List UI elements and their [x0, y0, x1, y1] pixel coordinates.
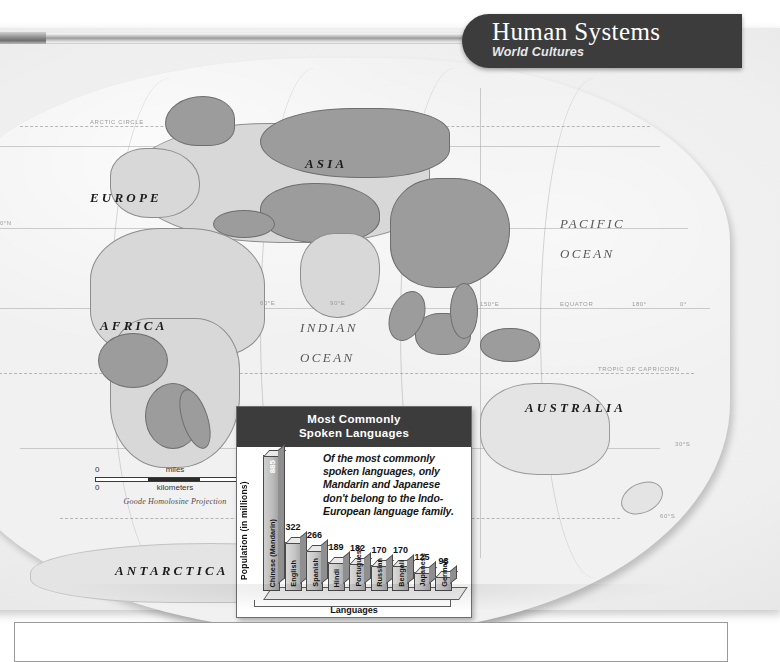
- chart-bar-category-label: Japanese: [418, 553, 427, 587]
- map-grid-label: 90°E: [330, 300, 345, 306]
- header-banner: Human Systems World Cultures: [462, 14, 742, 68]
- chart-bar-category-label: English: [289, 560, 298, 587]
- map-grid-label: 150°E: [480, 301, 499, 307]
- chart-bar-body: 170Russian: [371, 565, 388, 591]
- chart-bar-value: 189: [328, 542, 343, 552]
- map-label-africa: AFRICA: [100, 318, 168, 334]
- chart-bar-body: 98German: [435, 576, 452, 591]
- landmass-scandinavia: [165, 96, 235, 146]
- map-label-australia: AUSTRALIA: [525, 400, 626, 416]
- map-label-europe: EUROPE: [90, 190, 162, 206]
- map-label-indian: INDIAN: [300, 320, 358, 336]
- chart-bar-body: 182Portuguese: [349, 563, 366, 591]
- bottom-content-box: [14, 622, 728, 662]
- chart-title: Most Commonly Spoken Languages: [237, 407, 471, 447]
- chart-bar: 322English: [285, 542, 302, 591]
- chart-plot-area: Population (in millions) Of the most com…: [237, 447, 471, 616]
- scale-km-min: 0: [95, 483, 99, 492]
- chart-bar-category-label: German: [439, 559, 448, 587]
- landmass-russia: [260, 108, 450, 178]
- map-grid-label: 30°S: [675, 441, 690, 447]
- map-label-antarctica: ANTARCTICA: [115, 563, 229, 579]
- chart-y-axis-label: Population (in millions): [239, 461, 253, 601]
- page-subtitle: World Cultures: [492, 45, 724, 59]
- chart-bar-value: 170: [371, 545, 386, 555]
- chart-bar-value: 885: [267, 460, 276, 473]
- map-label-tropic-capricorn: TROPIC OF CAPRICORN: [598, 366, 680, 372]
- map-label-pacific-ocean: OCEAN: [560, 246, 615, 262]
- chart-bar-category-label: Russian: [375, 558, 384, 587]
- chart-bar: 189Hindi: [328, 562, 345, 591]
- landmass-central-asia: [260, 183, 380, 243]
- map-grid-label: 60°S: [660, 513, 675, 519]
- scale-bar-graphic: [95, 477, 255, 482]
- chart-bar-category-label: Hindi: [332, 569, 341, 587]
- top-divider-cap: [0, 32, 46, 44]
- map-label-indian-ocean: OCEAN: [300, 350, 355, 366]
- page-title: Human Systems: [492, 18, 724, 46]
- chart-bar: 170Bengali: [392, 565, 409, 591]
- chart-title-line-1: Most Commonly: [241, 413, 467, 427]
- meridian-line: [480, 88, 481, 558]
- chart-bar-value: 322: [285, 522, 300, 532]
- chart-bar-side-face: [450, 565, 457, 584]
- chart-bar-category-label: Bengali: [396, 560, 405, 587]
- chart-bar: 182Portuguese: [349, 563, 366, 591]
- scale-miles-min: 0: [95, 465, 99, 474]
- chart-bar-body: 125Japanese: [414, 572, 431, 591]
- chart-bar-body: 189Hindi: [328, 562, 345, 591]
- chart-bar: 266Spanish: [306, 550, 323, 591]
- chart-bar: 885Chinese (Mandarin): [263, 455, 280, 591]
- chart-bar-body: 885Chinese (Mandarin): [263, 455, 280, 591]
- map-projection-label: Goode Homolosine Projection: [95, 497, 255, 506]
- chart-x-axis-label: Languages: [237, 605, 471, 615]
- map-grid-label: 180°: [632, 301, 647, 307]
- map-grid-label: 0°: [680, 301, 687, 307]
- chart-bar-category-label: Spanish: [310, 558, 319, 587]
- map-label-arctic-circle: ARCTIC CIRCLE: [90, 119, 144, 125]
- chart-bar: 125Japanese: [414, 572, 431, 591]
- chart-bar-value: 170: [393, 545, 408, 555]
- chart-bar-group: 885Chinese (Mandarin)322English266Spanis…: [255, 455, 467, 591]
- scale-km-label: kilometers: [157, 483, 193, 492]
- map-grid-label: 30°N: [0, 220, 12, 226]
- landmass-europe: [110, 148, 200, 218]
- map-label-asia: ASIA: [305, 156, 347, 172]
- chart-title-line-2: Spoken Languages: [241, 427, 467, 441]
- chart-bar-body: 266Spanish: [306, 550, 323, 591]
- chart-bar-value: 266: [307, 530, 322, 540]
- map-scale-bar: 0 miles 2000 0 kilometers 3000 Goode Hom…: [95, 465, 255, 506]
- chart-bar-body: 322English: [285, 542, 302, 591]
- scale-miles-label: miles: [166, 465, 185, 474]
- landmass-west-africa: [98, 333, 168, 388]
- chart-bar-category-label: Chinese (Mandarin): [267, 519, 276, 588]
- chart-bar-category-label: Portuguese: [353, 546, 362, 587]
- landmass-new-guinea: [480, 328, 540, 362]
- landmass-philippines: [450, 283, 478, 339]
- map-label-pacific: PACIFIC: [560, 216, 625, 232]
- language-chart-card: Most Commonly Spoken Languages Populatio…: [236, 406, 472, 618]
- chart-bar: 170Russian: [371, 565, 388, 591]
- map-label-equator: EQUATOR: [560, 301, 593, 307]
- chart-bar-body: 170Bengali: [392, 565, 409, 591]
- map-grid-label: 60°E: [260, 300, 275, 306]
- landmass-australia: [480, 383, 610, 475]
- chart-bars-container: 885Chinese (Mandarin)322English266Spanis…: [255, 447, 467, 616]
- chart-bar: 98German: [435, 576, 452, 591]
